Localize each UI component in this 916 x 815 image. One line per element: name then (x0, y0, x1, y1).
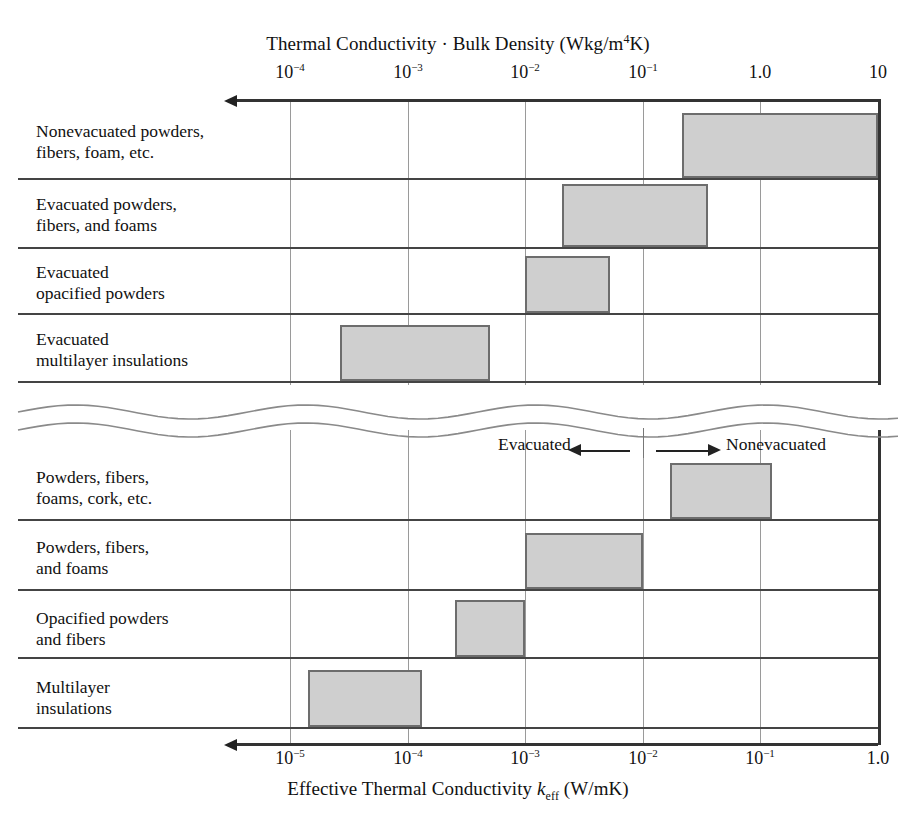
bottom-axis-arrow-icon (224, 739, 237, 751)
top-axis-line (236, 99, 878, 102)
panel-break-mask (18, 398, 900, 432)
top-axis-arrow-icon (224, 95, 237, 107)
axis-tick-label: 10−4 (275, 62, 305, 83)
bottom-right-border (878, 430, 881, 745)
row-label-line: Powders, fibers, (36, 537, 149, 558)
annotation-evacuated-label: Evacuated (498, 434, 571, 455)
top-right-border (878, 99, 881, 385)
row-label: Evacuatedmultilayer insulations (36, 329, 188, 371)
axis-tick-label: 10−5 (275, 748, 305, 769)
row-separator (18, 247, 878, 249)
gridline (643, 430, 644, 745)
row-separator (18, 589, 878, 591)
row-separator (18, 657, 878, 659)
bar (682, 113, 878, 178)
axis-tick-label: 10−2 (510, 62, 540, 83)
annotation-nonevacuated-label: Nonevacuated (726, 434, 826, 455)
axis-tick-label: 10 (869, 62, 887, 83)
annotation-divider (643, 428, 644, 458)
axis-tick-label: 10−3 (393, 62, 423, 83)
axis-tick-label: 10−1 (628, 62, 658, 83)
thermal-conductivity-chart: Thermal Conductivity · Bulk Density (Wkg… (0, 0, 916, 815)
row-separator (18, 178, 878, 180)
row-label-line: and foams (36, 558, 149, 579)
row-label: Evacuated powders,fibers, and foams (36, 194, 177, 236)
annotation-left-arrow-icon (568, 444, 581, 456)
bar (670, 463, 772, 519)
bar (525, 533, 643, 589)
row-label-line: Evacuated (36, 329, 188, 350)
axis-tick-label: 10−4 (393, 748, 423, 769)
axis-tick-label: 10−3 (510, 748, 540, 769)
bar (340, 325, 490, 381)
gridline (290, 430, 291, 745)
axis-tick-label: 10−2 (628, 748, 658, 769)
row-label-line: Nonevacuated powders, (36, 121, 204, 142)
row-label-line: Multilayer (36, 677, 112, 698)
row-label: Nonevacuated powders,fibers, foam, etc. (36, 121, 204, 163)
annotation-left-arrow-line (578, 450, 630, 452)
bottom-axis-line (236, 743, 878, 746)
row-label-line: and fibers (36, 629, 169, 650)
row-label: Evacuatedopacified powders (36, 262, 165, 304)
row-label-line: Opacified powders (36, 608, 169, 629)
gridline (290, 100, 291, 385)
row-label-line: opacified powders (36, 283, 165, 304)
row-label-line: multilayer insulations (36, 350, 188, 371)
row-separator (18, 727, 878, 729)
bar (562, 184, 708, 247)
row-label-line: Evacuated powders, (36, 194, 177, 215)
axis-tick-label: 1.0 (867, 748, 890, 769)
axis-tick-label: 10−1 (745, 748, 775, 769)
row-label: Multilayerinsulations (36, 677, 112, 719)
row-label-line: foams, cork, etc. (36, 488, 152, 509)
annotation-right-arrow-icon (708, 444, 721, 456)
row-label-line: Evacuated (36, 262, 165, 283)
row-separator (18, 519, 878, 521)
annotation-right-arrow-line (656, 450, 708, 452)
row-label-line: insulations (36, 698, 112, 719)
axis-tick-label: 1.0 (749, 62, 772, 83)
row-separator (18, 381, 878, 383)
gridline (525, 100, 526, 385)
row-label-line: fibers, foam, etc. (36, 142, 204, 163)
top-axis-title: Thermal Conductivity · Bulk Density (Wkg… (0, 32, 916, 55)
bottom-axis-title: Effective Thermal Conductivity keff (W/m… (0, 778, 916, 804)
row-label: Powders, fibers,foams, cork, etc. (36, 467, 152, 509)
row-label: Opacified powdersand fibers (36, 608, 169, 650)
bottom-axis-title-text: Effective Thermal Conductivity keff (W/m… (287, 778, 629, 799)
top-axis-title-text: Thermal Conductivity · Bulk Density (Wkg… (266, 33, 650, 54)
row-label-line: fibers, and foams (36, 215, 177, 236)
bar (308, 670, 422, 727)
row-label: Powders, fibers,and foams (36, 537, 149, 579)
row-separator (18, 313, 878, 315)
bar (525, 256, 610, 313)
row-label-line: Powders, fibers, (36, 467, 152, 488)
bar (455, 600, 525, 657)
